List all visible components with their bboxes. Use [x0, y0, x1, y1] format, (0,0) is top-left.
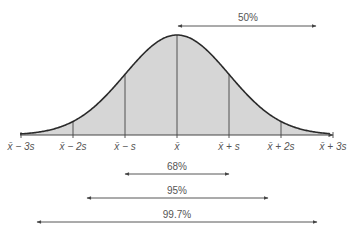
- range-95: 95%: [87, 185, 268, 198]
- axis-tick-label: x̄: [174, 141, 181, 152]
- normal-distribution-diagram: x̄ − 3sx̄ − 2sx̄ − sx̄x̄ + sx̄ + 2sx̄ + …: [0, 0, 352, 235]
- axis-tick-label: x̄ + 2s: [267, 141, 295, 152]
- axis-tick-label: x̄ − s: [113, 141, 135, 152]
- axis-tick-labels: x̄ − 3sx̄ − 2sx̄ − sx̄x̄ + sx̄ + 2sx̄ + …: [7, 141, 347, 152]
- range-99-7: 99.7%: [37, 209, 317, 222]
- range-50-label: 50%: [238, 12, 258, 23]
- range-50: 50%: [178, 12, 316, 26]
- axis-tick-label: x̄ + 3s: [319, 141, 347, 152]
- range-68: 68%: [125, 161, 229, 174]
- axis-tick-label: x̄ − 3s: [7, 141, 35, 152]
- sd-lines: [21, 35, 333, 138]
- range-99-7-label: 99.7%: [163, 209, 191, 220]
- curve-area: [20, 35, 330, 135]
- axis-tick-label: x̄ − 2s: [59, 141, 87, 152]
- range-95-label: 95%: [167, 185, 187, 196]
- range-68-label: 68%: [167, 161, 187, 172]
- axis-tick-label: x̄ + s: [217, 141, 239, 152]
